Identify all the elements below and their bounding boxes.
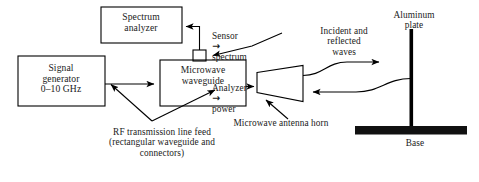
aluminum-plate-label: Aluminum plate [382,10,446,31]
arrow-right-icon: → [212,92,220,103]
sensor-chain-line-2: Analyzer → power [212,73,320,115]
incident-reflected-waves-label: Incident and reflected waves [303,26,385,57]
rf-feed-caption: RF transmission line feed (rectangular w… [82,127,242,158]
microwave-setup-diagram: Spectrum analyzer Signal generator 0–10 … [0,0,479,182]
sensor-connector-box [193,50,206,61]
connector-to-spectrum-analyzer-line [186,27,200,51]
analyzer-chain-target: power [212,104,236,114]
base-shape [355,126,467,135]
arrow-right-icon: → [212,40,220,51]
spectrum-analyzer-label: Spectrum analyzer [104,12,178,33]
aluminum-plate-shape [410,29,414,133]
signal-generator-label: Signal generator 0–10 GHz [20,63,102,95]
reflected-wave-arrow [313,79,411,93]
base-label: Base [392,138,438,148]
rf-feed-leader-left [111,85,152,122]
sensor-chain-target: spectrum [212,52,247,62]
